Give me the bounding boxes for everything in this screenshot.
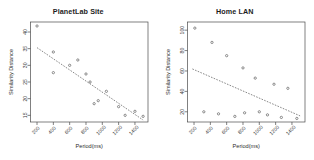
data-point	[193, 27, 195, 29]
data-point	[225, 55, 227, 57]
data-point	[85, 73, 87, 75]
data-point	[142, 115, 144, 117]
data-point	[36, 25, 38, 27]
y-tick-label: 40	[179, 88, 185, 94]
y-axis-title: Similarity Distance	[8, 49, 14, 95]
y-tick-label: 15	[22, 112, 28, 118]
y-tick-label: 35	[22, 46, 28, 52]
data-point	[117, 106, 119, 108]
x-tick-label: 400	[203, 125, 213, 135]
regression-fit-line	[192, 69, 300, 116]
y-tick-label: 30	[22, 62, 28, 68]
data-point	[241, 67, 243, 69]
data-point	[134, 110, 136, 112]
plot-frame	[187, 22, 305, 122]
data-point	[93, 103, 95, 105]
x-tick-label: 800	[236, 125, 246, 135]
x-tick-label: 600	[63, 125, 73, 135]
data-point	[295, 117, 297, 119]
chart-panel-homelan: Home LAN 2004006008001000120014002040608…	[157, 0, 314, 160]
x-tick-label: 1400	[284, 124, 296, 136]
data-point	[124, 114, 126, 116]
x-tick-label: 800	[79, 125, 89, 135]
data-point	[254, 77, 256, 79]
x-tick-label: 1400	[127, 124, 139, 136]
data-point	[280, 116, 282, 118]
data-point	[89, 81, 91, 83]
data-point	[97, 100, 99, 102]
plot-canvas-planetlab: 200400600800100012001400152025303540Peri…	[0, 0, 157, 160]
data-point	[217, 113, 219, 115]
x-tick-label: 1200	[268, 124, 280, 136]
data-point	[258, 111, 260, 113]
data-point	[202, 111, 204, 113]
x-axis-title: Period(ms)	[232, 143, 259, 149]
y-tick-label: 80	[179, 48, 185, 54]
data-point	[243, 112, 245, 114]
data-point	[286, 87, 288, 89]
y-tick-label: 20	[22, 96, 28, 102]
data-point	[272, 83, 274, 85]
plot-frame	[31, 22, 149, 122]
x-tick-label: 200	[30, 125, 40, 135]
y-tick-label: 40	[22, 29, 28, 35]
data-point	[52, 72, 54, 74]
x-axis-title: Period(ms)	[76, 143, 103, 149]
data-point	[77, 59, 79, 61]
x-tick-label: 400	[47, 125, 57, 135]
y-tick-label: 60	[179, 68, 185, 74]
y-tick-label: 100	[179, 26, 185, 35]
data-point	[266, 114, 268, 116]
y-tick-label: 20	[179, 109, 185, 115]
scatter-figure-pair: PlanetLab Site 2004006008001000120014001…	[0, 0, 313, 160]
data-point	[105, 90, 107, 92]
x-tick-label: 1200	[111, 124, 123, 136]
x-tick-label: 600	[220, 125, 230, 135]
regression-fit-line	[37, 48, 143, 120]
data-point	[233, 115, 235, 117]
data-point	[52, 51, 54, 53]
chart-panel-planetlab: PlanetLab Site 2004006008001000120014001…	[0, 0, 157, 160]
x-tick-label: 200	[187, 125, 197, 135]
y-tick-label: 25	[22, 79, 28, 85]
x-tick-label: 1000	[95, 124, 107, 136]
y-axis-title: Similarity Distance	[165, 49, 171, 95]
data-point	[69, 64, 71, 66]
x-tick-label: 1000	[251, 124, 263, 136]
data-point	[210, 41, 212, 43]
plot-canvas-homelan: 20040060080010001200140020406080100Perio…	[157, 0, 314, 160]
